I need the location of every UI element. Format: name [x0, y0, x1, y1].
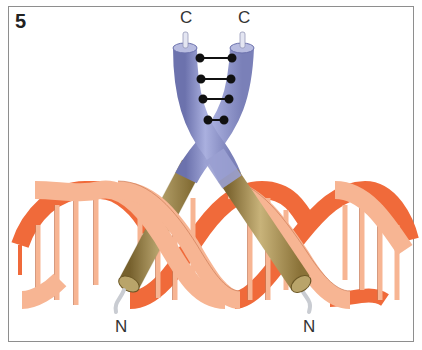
leucine-zipper-dna-illustration [0, 0, 422, 350]
n-terminus-label-right: N [303, 317, 315, 337]
n-tail-left [116, 290, 124, 312]
panel-number: 5 [15, 10, 26, 33]
c-terminus-label-right: C [238, 8, 250, 28]
n-terminus-label-left: N [115, 317, 127, 337]
n-tail-right [303, 292, 310, 312]
c-terminus-label-left: C [180, 8, 192, 28]
